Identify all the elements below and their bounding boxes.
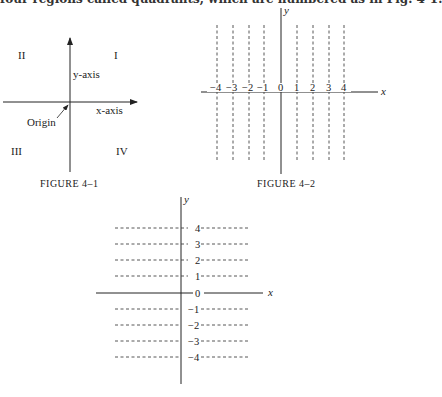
x-axis-label: x (267, 286, 273, 298)
tick-label: 4 (341, 82, 347, 93)
x-tick-labels: −4 −3 −2 −1 0 1 2 3 4 (207, 82, 351, 93)
tick-label: −2 (188, 320, 199, 331)
tick-label: −4 (210, 82, 222, 93)
origin-label: Origin (27, 116, 56, 128)
figure-4-3: y x 4 3 2 1 0 −1 −2 −3 −4 (96, 193, 273, 384)
quadrant-i-label: I (114, 49, 118, 61)
figure-4-1-caption: FIGURE 4–1 (40, 178, 99, 189)
x-axis-label: x (380, 85, 386, 97)
figure-4-1: II I y-axis x-axis Origin III IV FIGURE … (3, 38, 137, 189)
quadrant-iv-label: IV (116, 145, 128, 157)
quadrant-ii-label: II (18, 49, 26, 61)
tick-label: 3 (326, 82, 331, 93)
tick-label: 2 (195, 255, 200, 266)
tick-label: −4 (188, 352, 200, 363)
tick-label: −3 (226, 82, 237, 93)
figure-4-2-caption: FIGURE 4–2 (257, 178, 316, 189)
tick-label: −2 (242, 82, 253, 93)
y-axis-label: y (183, 193, 189, 205)
y-axis-label: y-axis (73, 68, 100, 80)
origin-pointer-arrow (57, 105, 68, 118)
tick-label: 2 (310, 82, 315, 93)
tick-label: 0 (195, 288, 200, 299)
tick-label: 1 (294, 82, 299, 93)
figure-4-2: y x −4 −3 −2 −1 0 1 2 3 4 FIGURE 4–2 (201, 4, 386, 189)
tick-label: −1 (188, 304, 199, 315)
tick-label: −3 (188, 336, 199, 347)
tick-label: 4 (195, 223, 201, 234)
tick-label: 1 (195, 271, 200, 282)
tick-label: 3 (195, 239, 200, 250)
tick-label: −1 (257, 82, 268, 93)
y-axis-label: y (283, 4, 289, 16)
quadrant-iii-label: III (11, 145, 22, 157)
x-axis-label: x-axis (96, 104, 123, 116)
tick-label: 0 (278, 82, 283, 93)
